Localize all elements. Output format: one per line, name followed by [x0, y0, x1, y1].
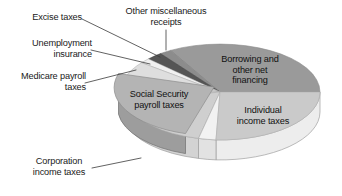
slice-label-social-security-payroll-taxes: Social Security payroll taxes [119, 89, 199, 110]
callout-label-unemployment-insurance: Unemployment insurance [6, 38, 92, 59]
slice-label-individual-income-taxes: Individual income taxes [223, 105, 303, 126]
pie-chart-figure: Excise taxes Other miscellaneous receipt… [0, 0, 342, 196]
leader-line-unemployment-insurance [91, 50, 150, 64]
side-wall-corporation-income-taxes [199, 138, 217, 160]
callout-label-other-miscellaneous-receipts: Other miscellaneous receipts [108, 6, 224, 27]
leader-line-corporation-income-taxes [92, 158, 141, 168]
callout-label-corporation-income-taxes: Corporation income taxes [24, 156, 94, 177]
slice-label-borrowing: Borrowing and other net financing [205, 54, 295, 86]
callout-label-medicare-payroll-taxes: Medicare payroll taxes [2, 71, 86, 92]
callout-label-excise-taxes: Excise taxes [10, 12, 82, 23]
